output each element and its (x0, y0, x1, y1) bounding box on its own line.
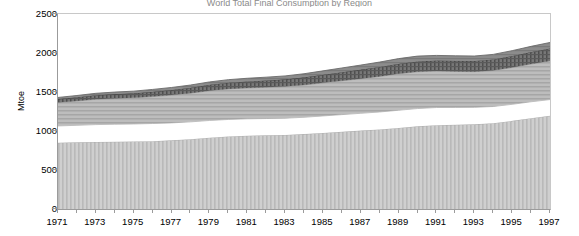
chart-container: World Total Final Consumption by Region … (0, 0, 579, 236)
x-tick-label: 1993 (463, 216, 484, 227)
stacked-area-series (58, 14, 550, 209)
plot-area (57, 13, 551, 210)
y-tick-mark (52, 169, 57, 170)
x-tick-label: 1977 (160, 216, 181, 227)
x-tick-label: 1975 (122, 216, 143, 227)
x-tick-label: 1979 (198, 216, 219, 227)
x-tick-label: 1973 (84, 216, 105, 227)
y-tick-mark (52, 130, 57, 131)
x-tick-label: 1987 (349, 216, 370, 227)
x-tick-label: 1991 (425, 216, 446, 227)
y-tick-mark (52, 208, 57, 209)
x-tick-label: 1985 (311, 216, 332, 227)
y-tick-mark (52, 91, 57, 92)
y-tick-mark (52, 52, 57, 53)
y-tick-mark (52, 13, 57, 14)
x-tick-label: 1997 (538, 216, 559, 227)
x-tick-label: 1971 (46, 216, 67, 227)
x-tick-label: 1981 (236, 216, 257, 227)
x-tick-label: 1989 (387, 216, 408, 227)
x-tick-label: 1983 (273, 216, 294, 227)
x-tick-label: 1995 (501, 216, 522, 227)
